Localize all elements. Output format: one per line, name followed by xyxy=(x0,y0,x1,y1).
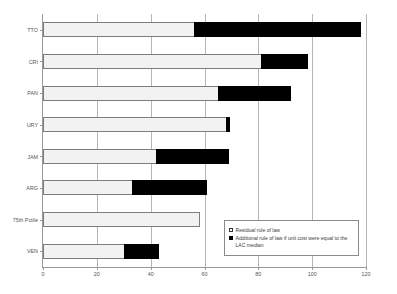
plot-area: TTOCRIPANURYJAMARG75th PctileVEN Residua… xyxy=(42,14,366,268)
bar-segment-additional xyxy=(156,149,229,164)
x-axis-tick xyxy=(258,267,259,270)
x-axis-tick-label: 120 xyxy=(362,271,371,277)
stacked-bar xyxy=(43,149,229,164)
bar-segment-residual xyxy=(43,22,194,37)
x-axis-tick xyxy=(97,267,98,270)
stacked-bar xyxy=(43,86,291,101)
bar-segment-additional xyxy=(194,22,361,37)
bar-chart: TTOCRIPANURYJAMARG75th PctileVEN Residua… xyxy=(0,0,397,294)
legend-swatch-residual-icon xyxy=(229,228,233,232)
bar-segment-residual xyxy=(43,244,124,259)
x-axis-tick xyxy=(312,267,313,270)
bar-segment-residual xyxy=(43,212,200,227)
stacked-bar xyxy=(43,22,361,37)
y-axis-category-label: JAM xyxy=(27,150,38,165)
x-axis-tick xyxy=(43,267,44,270)
bar-row: TTO xyxy=(43,14,366,46)
y-axis-category-label: 75th Pctile xyxy=(13,213,38,228)
bar-segment-residual xyxy=(43,149,156,164)
bar-segment-additional xyxy=(226,117,230,132)
bar-segment-residual xyxy=(43,180,132,195)
legend-item-residual: Residual rule of law xyxy=(229,227,354,234)
legend-swatch-additional-icon xyxy=(229,236,233,240)
bar-row: ARG xyxy=(43,172,366,204)
y-axis-category-label: ARG xyxy=(26,181,38,196)
bar-row: URY xyxy=(43,109,366,141)
stacked-bar xyxy=(43,244,159,259)
x-axis-tick xyxy=(205,267,206,270)
y-axis-category-label: CRI xyxy=(29,55,38,70)
y-axis-category-label: VEN xyxy=(27,244,38,259)
x-axis-tick-label: 60 xyxy=(202,271,208,277)
legend-label-residual: Residual rule of law xyxy=(236,227,355,234)
y-axis-category-label: TTO xyxy=(27,23,38,38)
bar-segment-residual xyxy=(43,117,226,132)
bar-row: CRI xyxy=(43,46,366,78)
bar-segment-additional xyxy=(218,86,291,101)
x-axis-tick-label: 0 xyxy=(42,271,45,277)
y-axis-category-label: PAN xyxy=(27,86,38,101)
x-axis-tick xyxy=(151,267,152,270)
x-axis-tick-label: 20 xyxy=(94,271,100,277)
bar-row: JAM xyxy=(43,141,366,173)
gridline xyxy=(366,14,367,267)
y-axis-category-label: URY xyxy=(27,118,38,133)
bar-segment-additional xyxy=(132,180,207,195)
legend-label-additional: Additional rule of law if unit cost were… xyxy=(236,235,355,249)
stacked-bar xyxy=(43,54,308,69)
legend-item-additional: Additional rule of law if unit cost were… xyxy=(229,235,354,249)
bar-row: PAN xyxy=(43,77,366,109)
bar-segment-residual xyxy=(43,54,261,69)
stacked-bar xyxy=(43,212,200,227)
x-axis-tick xyxy=(366,267,367,270)
chart-legend: Residual rule of law Additional rule of … xyxy=(224,220,359,256)
stacked-bar xyxy=(43,117,230,132)
x-axis-tick-label: 80 xyxy=(255,271,261,277)
bar-segment-additional xyxy=(261,54,308,69)
x-axis-tick-label: 100 xyxy=(308,271,317,277)
bar-segment-residual xyxy=(43,86,218,101)
stacked-bar xyxy=(43,180,207,195)
bar-segment-additional xyxy=(124,244,159,259)
x-axis-tick-label: 40 xyxy=(148,271,154,277)
